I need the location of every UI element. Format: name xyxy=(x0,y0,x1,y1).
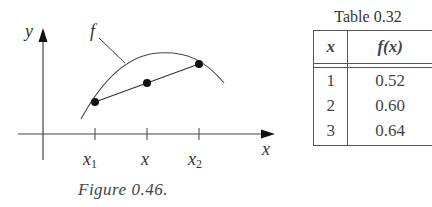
cell-x: 1 xyxy=(313,68,348,93)
tick-label-x: x xyxy=(141,150,149,168)
table-row: 2 0.60 xyxy=(313,93,432,118)
data-table: x f(x) 1 0.52 2 0.60 3 0.64 xyxy=(313,30,432,146)
tick-label-x2: x2 xyxy=(188,150,202,170)
cell-fx: 0.52 xyxy=(348,68,432,93)
table-header-row: x f(x) xyxy=(313,30,432,64)
figure-graph xyxy=(0,0,300,207)
table-0-32: Table 0.32 x f(x) 1 0.52 2 0.60 3 0.64 xyxy=(313,8,432,146)
point-x xyxy=(143,79,151,87)
table-row: 3 0.64 xyxy=(313,118,432,146)
cell-x: 3 xyxy=(313,118,348,146)
table-row: 1 0.52 xyxy=(313,68,432,93)
x-axis-label: x xyxy=(262,140,270,158)
header-x: x xyxy=(313,30,348,64)
point-x1 xyxy=(91,98,99,106)
tick-label-x1: x1 xyxy=(83,150,97,170)
figure-0-46: y f x x1 x x2 Figure 0.46. xyxy=(0,0,300,207)
figure-caption: Figure 0.46. xyxy=(78,180,168,200)
cell-fx: 0.64 xyxy=(348,118,432,146)
curve-label-leader xyxy=(99,38,125,63)
cell-x: 2 xyxy=(313,93,348,118)
point-x2 xyxy=(195,60,203,68)
curve-label: f xyxy=(90,22,95,40)
y-axis-arrow-icon xyxy=(39,28,48,42)
x-axis-arrow-icon xyxy=(261,130,275,139)
header-fx: f(x) xyxy=(348,30,432,64)
y-axis-label: y xyxy=(25,22,33,40)
cell-fx: 0.60 xyxy=(348,93,432,118)
table-caption: Table 0.32 xyxy=(313,8,423,26)
